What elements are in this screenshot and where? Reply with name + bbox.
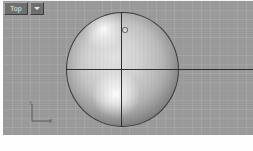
viewport-label-group[interactable]: Top: [4, 2, 44, 15]
application-window: Y X Top: [0, 0, 253, 151]
viewport-menu-dropdown-button[interactable]: [30, 2, 44, 15]
chevron-down-icon: [34, 7, 40, 10]
axis-tripod-x-label: X: [49, 119, 52, 124]
window-bottom-margin: [0, 135, 253, 151]
window-left-margin: [0, 0, 3, 136]
axis-tripod-y-label: Y: [29, 101, 32, 106]
horizontal-construction-axis: [66, 69, 253, 70]
viewport-top[interactable]: Y X: [3, 1, 253, 135]
pivot-point-marker[interactable]: [122, 27, 128, 33]
axis-tripod-indicator: Y X: [27, 101, 57, 127]
viewport-label-button[interactable]: Top: [4, 2, 28, 15]
